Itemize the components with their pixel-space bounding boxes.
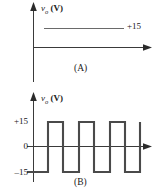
panel-a: vo (V) +15 (A): [0, 0, 161, 95]
y-tick-label-minus15: –15: [2, 168, 28, 177]
panel-a-caption: (A): [74, 64, 87, 74]
panel-b-caption: (B): [74, 178, 87, 188]
y-tick-label-plus15: +15: [2, 117, 28, 126]
waveform-figure: vo (V) +15 (A) vo (V) +15 0 –15 (B): [0, 0, 161, 190]
y-tick-label-zero: 0: [2, 142, 28, 151]
panel-a-plot: [0, 0, 161, 95]
y-axis-label-b: vo (V): [41, 94, 63, 105]
y-axis-arrow-icon-a: [30, 2, 37, 11]
level-label-plus15: +15: [127, 22, 141, 31]
x-axis-arrow-icon-a: [143, 44, 152, 51]
x-axis-arrow-icon-b: [143, 143, 152, 150]
y-axis-label-a: vo (V): [41, 4, 63, 15]
panel-b: vo (V) +15 0 –15 (B): [0, 90, 161, 190]
y-axis-arrow-icon-b: [30, 92, 37, 101]
